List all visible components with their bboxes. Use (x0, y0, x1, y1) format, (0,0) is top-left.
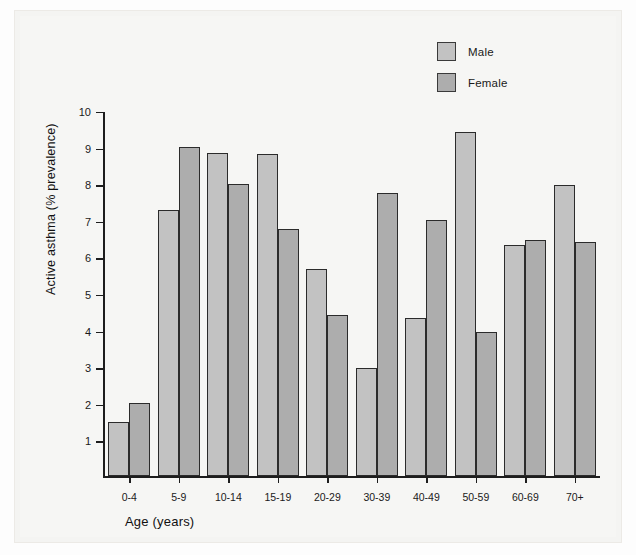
y-tick-mark (96, 185, 103, 186)
bar-male-10-14[interactable] (207, 153, 228, 477)
legend-label-female: Female (468, 77, 508, 89)
x-tick-label: 20-29 (314, 491, 341, 503)
y-tick-label: 2 (65, 399, 91, 411)
legend-label-male: Male (468, 46, 494, 58)
y-tick-label: 7 (65, 216, 91, 228)
bar-group: 0-4 (105, 112, 155, 476)
y-tick-label: 1 (65, 435, 91, 447)
y-tick-mark (96, 368, 103, 369)
legend-item-female: Female (437, 73, 607, 92)
bar-female-50-59[interactable] (476, 332, 497, 477)
x-tick-label: 30-39 (363, 491, 390, 503)
bar-groups: 0-45-910-1415-1920-2930-3940-4950-5960-6… (105, 112, 600, 476)
x-tick-label: 10-14 (215, 491, 242, 503)
y-axis-title: Active asthma (% prevalence) (44, 123, 58, 295)
y-tick-mark (96, 441, 103, 442)
y-tick-label: 8 (65, 179, 91, 191)
bar-male-50-59[interactable] (455, 132, 476, 477)
bar-male-70+[interactable] (554, 185, 575, 476)
y-tick-mark (96, 112, 103, 113)
x-axis-title: Age (years) (125, 514, 194, 529)
bar-group: 10-14 (204, 112, 254, 476)
x-tick-label: 5-9 (171, 491, 186, 503)
y-tick-mark (96, 222, 103, 223)
bar-group: 40-49 (402, 112, 452, 476)
y-tick-label: 4 (65, 326, 91, 338)
bar-male-60-69[interactable] (504, 245, 525, 476)
legend-swatch-male (437, 42, 456, 61)
x-tick-mark (129, 476, 130, 483)
legend-item-male: Male (437, 42, 607, 61)
bar-female-15-19[interactable] (278, 229, 299, 476)
bar-group: 50-59 (451, 112, 501, 476)
x-tick-label: 15-19 (264, 491, 291, 503)
y-tick-label: 10 (65, 106, 91, 118)
plot-area: 12345678910 0-45-910-1415-1920-2930-3940… (103, 112, 600, 478)
y-tick-label: 9 (65, 143, 91, 155)
chart-page: Male Female Active asthma (% prevalence)… (0, 0, 636, 555)
y-tick-label: 5 (65, 289, 91, 301)
x-tick-mark (377, 476, 378, 483)
legend-swatch-female (437, 73, 456, 92)
bar-male-5-9[interactable] (158, 210, 179, 476)
x-tick-label: 40-49 (413, 491, 440, 503)
x-tick-label: 0-4 (122, 491, 137, 503)
bar-female-20-29[interactable] (327, 315, 348, 476)
x-tick-mark (327, 476, 328, 483)
bar-group: 20-29 (303, 112, 353, 476)
bar-male-20-29[interactable] (306, 269, 327, 477)
bar-group: 5-9 (154, 112, 204, 476)
bar-female-70+[interactable] (575, 242, 596, 476)
bar-group: 70+ (550, 112, 600, 476)
y-tick-label: 3 (65, 362, 91, 374)
x-tick-label: 50-59 (462, 491, 489, 503)
bar-male-0-4[interactable] (108, 422, 129, 477)
x-tick-mark (179, 476, 180, 483)
y-tick-label: 6 (65, 252, 91, 264)
bar-female-10-14[interactable] (228, 184, 249, 476)
y-tick-mark (96, 332, 103, 333)
bar-female-40-49[interactable] (426, 220, 447, 476)
x-tick-label: 70+ (566, 491, 584, 503)
bar-female-5-9[interactable] (179, 147, 200, 476)
bar-group: 15-19 (253, 112, 303, 476)
x-tick-mark (278, 476, 279, 483)
bar-male-15-19[interactable] (257, 154, 278, 477)
x-tick-mark (575, 476, 576, 483)
y-tick-mark (96, 149, 103, 150)
bar-male-40-49[interactable] (405, 318, 426, 476)
bar-group: 60-69 (501, 112, 551, 476)
bar-male-30-39[interactable] (356, 368, 377, 476)
x-tick-mark (525, 476, 526, 483)
y-tick-mark (96, 258, 103, 259)
bar-group: 30-39 (352, 112, 402, 476)
x-tick-mark (476, 476, 477, 483)
x-tick-mark (228, 476, 229, 483)
bar-female-30-39[interactable] (377, 193, 398, 477)
chart-legend: Male Female (437, 42, 607, 104)
y-tick-mark (96, 405, 103, 406)
x-tick-label: 60-69 (512, 491, 539, 503)
bar-female-0-4[interactable] (129, 403, 150, 476)
x-tick-mark (426, 476, 427, 483)
y-tick-mark (96, 295, 103, 296)
bar-female-60-69[interactable] (525, 240, 546, 476)
